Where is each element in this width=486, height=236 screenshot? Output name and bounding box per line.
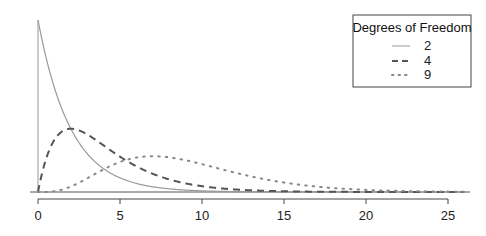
series-line-df-9	[38, 156, 464, 192]
x-tick-label: 5	[116, 208, 123, 223]
x-tick-label: 0	[34, 208, 41, 223]
legend-title: Degrees of Freedom	[352, 20, 471, 35]
legend-label-2: 2	[424, 38, 431, 53]
series-line-df-4	[38, 129, 464, 192]
x-axis: 0510152025	[34, 199, 455, 223]
x-tick-label: 25	[441, 208, 455, 223]
legend: Degrees of Freedom 2 4 9	[352, 15, 471, 87]
legend-label-9: 9	[424, 67, 431, 82]
chart: 0510152025 Degrees of Freedom 2 4 9	[0, 0, 486, 236]
legend-label-4: 4	[424, 53, 431, 68]
x-tick-label: 10	[195, 208, 209, 223]
x-tick-label: 20	[359, 208, 373, 223]
x-tick-label: 15	[277, 208, 291, 223]
